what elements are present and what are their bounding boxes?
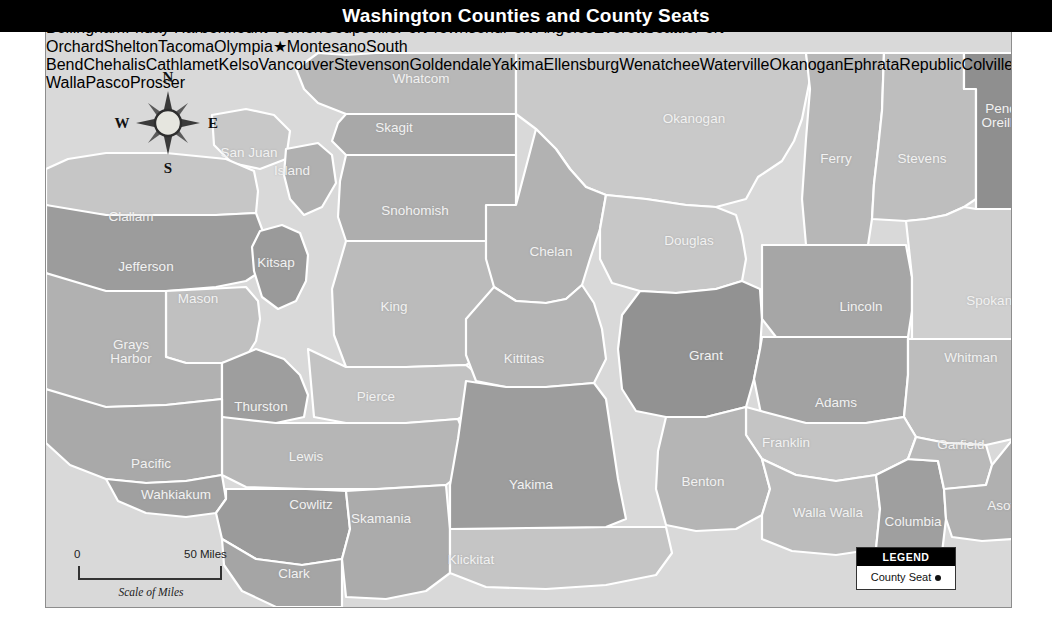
county-mason: [166, 287, 260, 363]
county-stevens: [872, 53, 976, 221]
legend-item-county-seat: County Seat: [857, 566, 955, 589]
map-title-bar: Washington Counties and County Seats: [0, 0, 1052, 32]
map-page: WhatcomSkagitSan JuanIslandSnohomishClal…: [0, 0, 1052, 629]
legend-box: LEGEND County Seat: [856, 547, 956, 590]
county-columbia: [876, 459, 946, 557]
county-whatcom: [296, 53, 516, 114]
legend-header: LEGEND: [857, 548, 955, 566]
county-yakima: [450, 381, 626, 529]
county-spokane: [906, 207, 1012, 339]
compass-north-label: N: [163, 69, 174, 86]
scale-bar-line: [78, 566, 222, 580]
county-jefferson: [46, 205, 272, 291]
legend-item-label: County Seat: [871, 571, 932, 583]
county-lincoln: [762, 245, 912, 337]
county-skagit: [332, 114, 516, 155]
county-douglas: [600, 195, 746, 293]
county-lewis: [222, 417, 466, 489]
map-frame: WhatcomSkagitSan JuanIslandSnohomishClal…: [45, 18, 1012, 608]
county-seat-dot-icon: [935, 575, 941, 581]
page-title: Washington Counties and County Seats: [342, 5, 710, 27]
compass-west-label: W: [115, 115, 130, 132]
county-grant: [618, 281, 762, 417]
scale-caption: Scale of Miles: [86, 586, 216, 598]
county-whitman: [904, 339, 1012, 445]
scale-zero-label: 0: [74, 548, 80, 560]
compass-east-label: E: [208, 115, 218, 132]
county-adams: [754, 337, 908, 423]
compass-south-label: S: [164, 160, 172, 177]
compass-rose: N S W E: [116, 69, 220, 173]
county-skamania: [342, 485, 450, 599]
scale-max-label: 50 Miles: [184, 548, 227, 560]
